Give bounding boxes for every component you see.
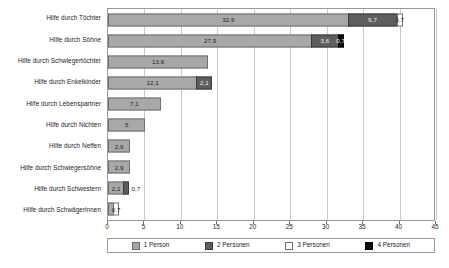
stacked-bar[interactable]: 2,9 (108, 140, 130, 153)
legend-label: 3 Personen (297, 242, 330, 248)
bar-row: 2,10,7 (108, 178, 434, 199)
bar-value-label: 0,7 (131, 185, 140, 191)
legend-item[interactable]: 1 Person (132, 242, 170, 250)
legend-swatch-icon (365, 242, 373, 250)
bar-value-label: 13,6 (152, 59, 164, 65)
category-axis-labels: Hilfe durch TöchterHilfe durch SöhneHilf… (0, 8, 104, 221)
x-axis-tick-label: 10 (176, 224, 183, 230)
stacked-bar[interactable]: 13,6 (108, 55, 208, 68)
bar-row: 12,12,1 (108, 72, 434, 93)
category-label: Hilfe durch Schwiegertöchter (0, 51, 104, 72)
x-axis-tick-label: 45 (431, 224, 438, 230)
category-label: Hilfe durch Schwägerinnen (0, 200, 104, 221)
category-label: Hilfe durch Söhne (0, 29, 104, 50)
bar-row: 32,96,70,7 (108, 9, 434, 30)
bar-value-label: 2,1 (200, 80, 209, 86)
bar-value-label: 2,9 (115, 143, 124, 149)
x-axis-tick-label: 0 (105, 224, 109, 230)
bar-segment[interactable]: 13,6 (108, 55, 208, 68)
bar-segment[interactable]: 7,1 (108, 97, 161, 110)
bar-value-label: 32,9 (222, 16, 234, 22)
x-axis-tick-label: 20 (249, 224, 256, 230)
x-axis-tick-label: 25 (286, 224, 293, 230)
bar-segment[interactable]: 32,9 (108, 13, 349, 26)
bar-value-label: 27,9 (204, 38, 216, 44)
stacked-bar[interactable]: 2,9 (108, 161, 130, 174)
legend-item[interactable]: 3 Personen (285, 242, 330, 250)
bar-row: 27,93,60,7 (108, 30, 434, 51)
bar-segment[interactable]: 0,7 (397, 13, 403, 26)
bar-row: 7,1 (108, 93, 434, 114)
stacked-bar[interactable]: 5 (108, 119, 145, 132)
bar-row: 13,6 (108, 51, 434, 72)
stacked-bar[interactable]: 12,12,1 (108, 76, 212, 89)
x-axis-tick-label: 5 (142, 224, 146, 230)
bar-segment[interactable]: 0,7 (123, 182, 129, 195)
bar-segment[interactable]: 12,1 (108, 76, 197, 89)
stacked-bar[interactable]: 0,7 (108, 203, 119, 216)
bar-value-label: 0,7 (336, 38, 345, 44)
bar-row: 2,9 (108, 157, 434, 178)
bar-rows: 32,96,70,727,93,60,713,612,12,17,152,92,… (108, 9, 434, 220)
x-axis-tick-label: 15 (213, 224, 220, 230)
legend-swatch-icon (132, 242, 140, 250)
legend-label: 1 Person (144, 242, 170, 248)
stacked-bar-chart: Hilfe durch TöchterHilfe durch SöhneHilf… (0, 0, 449, 268)
bar-value-label: 12,1 (146, 80, 158, 86)
bar-row: 5 (108, 114, 434, 135)
category-label: Hilfe durch Nichten (0, 114, 104, 135)
bar-segment[interactable]: 5 (108, 119, 145, 132)
bar-segment[interactable]: 2,9 (108, 161, 130, 174)
stacked-bar[interactable]: 2,10,7 (108, 182, 129, 195)
bar-segment[interactable]: 2,9 (108, 140, 130, 153)
category-label: Hilfe durch Schwiegersöhne (0, 157, 104, 178)
bar-row: 2,9 (108, 136, 434, 157)
bar-segment[interactable]: 27,9 (108, 34, 312, 47)
bar-value-label: 6,7 (368, 16, 377, 22)
bar-value-label: 2,9 (115, 164, 124, 170)
bar-segment[interactable]: 0,7 (338, 34, 344, 47)
legend-label: 2 Personen (217, 242, 250, 248)
bar-row: 0,7 (108, 199, 434, 220)
gridline (436, 9, 437, 220)
x-axis-tick-label: 30 (322, 224, 329, 230)
bar-value-label: 2,1 (112, 185, 121, 191)
x-axis: 051015202530354045 (107, 221, 435, 234)
category-label: Hilfe durch Lebenspartner (0, 93, 104, 114)
bar-value-label: 7,1 (130, 101, 139, 107)
plot-area: 32,96,70,727,93,60,713,612,12,17,152,92,… (107, 8, 435, 221)
legend-swatch-icon (205, 242, 213, 250)
bar-value-label: 5 (125, 122, 129, 128)
x-axis-tick-label: 35 (359, 224, 366, 230)
legend-swatch-icon (285, 242, 293, 250)
bar-value-label: 0,7 (112, 206, 121, 212)
stacked-bar[interactable]: 32,96,70,7 (108, 13, 403, 26)
bar-segment[interactable]: 6,7 (348, 13, 398, 26)
bar-segment[interactable]: 3,6 (311, 34, 338, 47)
bar-value-label: 0,7 (395, 16, 404, 22)
legend-label: 4 Personen (377, 242, 410, 248)
stacked-bar[interactable]: 27,93,60,7 (108, 34, 344, 47)
bar-segment[interactable]: 0,7 (113, 203, 119, 216)
bar-segment[interactable]: 2,1 (108, 182, 124, 195)
category-label: Hilfe durch Neffen (0, 136, 104, 157)
stacked-bar[interactable]: 7,1 (108, 97, 161, 110)
bar-value-label: 3,6 (321, 38, 330, 44)
bar-segment[interactable]: 2,1 (196, 76, 212, 89)
x-axis-tick-label: 40 (395, 224, 402, 230)
chart-legend: 1 Person2 Personen3 Personen4 Personen (107, 238, 435, 253)
category-label: Hilfe durch Enkelkinder (0, 72, 104, 93)
legend-item[interactable]: 2 Personen (205, 242, 250, 250)
legend-item[interactable]: 4 Personen (365, 242, 410, 250)
category-label: Hilfe durch Töchter (0, 8, 104, 29)
category-label: Hilfe durch Schwestern (0, 178, 104, 199)
